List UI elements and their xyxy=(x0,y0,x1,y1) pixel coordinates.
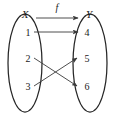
function-mapping-diagram: X Y f 1 2 3 4 5 6 xyxy=(0,0,115,118)
element-y-6: 6 xyxy=(85,81,90,92)
diagram-canvas: X Y f 1 2 3 4 5 6 xyxy=(0,0,115,118)
element-x-2: 2 xyxy=(26,53,31,64)
set-x-label: X xyxy=(21,8,30,20)
element-y-5: 5 xyxy=(85,53,90,64)
element-y-4: 4 xyxy=(85,27,90,38)
element-x-3: 3 xyxy=(26,81,31,92)
element-x-1: 1 xyxy=(26,27,31,38)
mapping-function-label: f xyxy=(56,2,60,13)
set-y-oval xyxy=(73,14,107,112)
